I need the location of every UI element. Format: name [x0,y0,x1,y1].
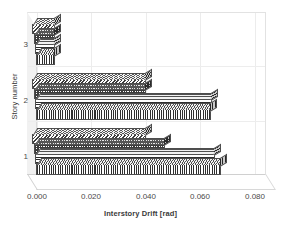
group-separator-2-1 [28,121,265,122]
bar-top-face [36,93,215,100]
plot-area-floor [27,174,275,190]
bar-top-face [33,73,149,80]
bar-top-face [37,158,224,165]
xtick-label-3: 0.060 [178,192,222,201]
ytick-label-1: 1 [12,152,28,161]
xtick-label-1: 0.020 [69,192,113,201]
x-axis-title: Interstory Drift [rad] [0,209,281,218]
xtick-label-2: 0.040 [124,192,168,201]
xtick-label-4: 0.080 [233,192,277,201]
xtick-label-0: 0.000 [15,192,59,201]
bar-top-face [33,128,149,135]
floor-edge-front [37,189,275,190]
bar-story3-series4 [36,54,55,65]
bar-top-face [36,148,218,155]
chart-3d-bar: 3 2 1 0.000 0.020 0.040 0.060 0.080 Stor… [0,0,281,228]
y-axis-title: Story number [10,57,19,137]
bar-top-face [35,83,149,90]
bar-story2-series4 [36,109,211,120]
group-separator-3-2 [28,66,265,67]
ytick-label-3: 3 [12,40,28,49]
bar-top-face [37,103,214,110]
bar-top-face [35,138,168,145]
gridline-x-0.080 [255,13,256,174]
bar-story1-series4 [36,164,221,175]
